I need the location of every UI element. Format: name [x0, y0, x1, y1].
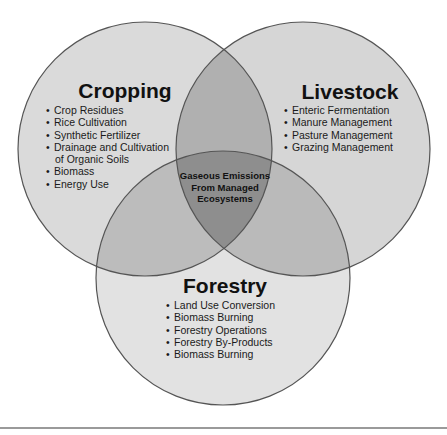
list-item: Energy Use: [46, 178, 169, 190]
list-item: Drainage and Cultivation: [46, 141, 169, 153]
center-label-line: From Managed: [175, 182, 275, 194]
list-item: Grazing Management: [284, 141, 393, 153]
bottom-divider: [0, 427, 447, 429]
cropping-list: Crop Residues Rice Cultivation Synthetic…: [46, 104, 169, 190]
list-item-continuation: of Organic Soils: [46, 153, 169, 165]
cropping-title: Cropping: [60, 79, 190, 103]
list-item: Biomass Burning: [166, 348, 275, 360]
center-label: Gaseous Emissions From Managed Ecosystem…: [175, 170, 275, 205]
forestry-list: Land Use Conversion Biomass Burning Fore…: [166, 299, 275, 360]
list-item: Synthetic Fertilizer: [46, 129, 169, 141]
center-label-line: Gaseous Emissions: [175, 170, 275, 182]
venn-diagram: [0, 0, 447, 435]
list-item: Forestry By-Products: [166, 336, 275, 348]
center-label-line: Ecosystems: [175, 193, 275, 205]
livestock-list: Enteric Fermentation Manure Management P…: [284, 104, 393, 153]
list-item: Pasture Management: [284, 129, 393, 141]
livestock-title: Livestock: [290, 80, 410, 104]
list-item: Forestry Operations: [166, 324, 275, 336]
list-item: Biomass Burning: [166, 311, 275, 323]
list-item: Crop Residues: [46, 104, 169, 116]
list-item: Enteric Fermentation: [284, 104, 393, 116]
list-item: Biomass: [46, 165, 169, 177]
list-item: Land Use Conversion: [166, 299, 275, 311]
list-item: Manure Management: [284, 116, 393, 128]
forestry-title: Forestry: [170, 274, 280, 298]
list-item: Rice Cultivation: [46, 116, 169, 128]
